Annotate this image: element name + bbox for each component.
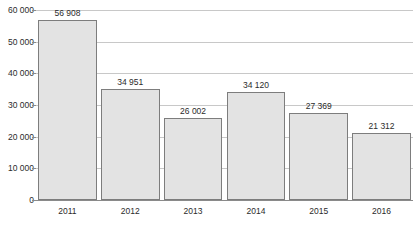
y-axis-tick-label: 40 000 (0, 69, 34, 78)
bar-chart: 010 00020 00030 00040 00050 00060 000 56… (0, 0, 416, 227)
bar-value-label: 34 120 (243, 81, 269, 90)
x-axis-tick-label: 2015 (309, 206, 328, 216)
y-axis-tick-label: 60 000 (0, 6, 34, 15)
y-axis-tick-mark (32, 105, 36, 106)
x-axis-tick-label: 2012 (121, 206, 140, 216)
bar-column: 21 312 (352, 10, 411, 200)
bar-column: 56 908 (38, 10, 97, 200)
y-axis-tick-label: 10 000 (0, 164, 34, 173)
bar[interactable] (289, 113, 348, 200)
bar-value-label: 56 908 (54, 9, 80, 18)
y-axis-tick-mark (32, 73, 36, 74)
bar[interactable] (352, 133, 411, 200)
bar[interactable] (227, 92, 286, 200)
bar-column: 26 002 (164, 10, 223, 200)
x-axis-tick-label: 2016 (372, 206, 391, 216)
y-axis-tick-label: 20 000 (0, 133, 34, 142)
y-axis-tick-mark (32, 137, 36, 138)
x-axis-tick-label: 2014 (246, 206, 265, 216)
bar-column: 34 120 (227, 10, 286, 200)
plot-area: 56 90834 95126 00234 12027 36921 312 (36, 10, 413, 200)
bar-value-label: 34 951 (117, 78, 143, 87)
bar-column: 34 951 (101, 10, 160, 200)
bar-column: 27 369 (289, 10, 348, 200)
y-axis-tick-label: 30 000 (0, 101, 34, 110)
y-axis-tick-mark (32, 10, 36, 11)
y-axis-tick-label: 0 (0, 196, 34, 205)
bar[interactable] (164, 118, 223, 200)
y-axis-tick-mark (32, 42, 36, 43)
y-axis-tick-label: 50 000 (0, 38, 34, 47)
bar[interactable] (101, 89, 160, 200)
x-axis-tick-label: 2013 (184, 206, 203, 216)
y-axis-tick-mark (32, 200, 36, 201)
bar[interactable] (38, 20, 97, 200)
axis-baseline (36, 200, 413, 201)
bar-value-label: 26 002 (180, 107, 206, 116)
y-axis-tick-mark (32, 168, 36, 169)
bar-value-label: 21 312 (369, 122, 395, 131)
x-axis-tick-label: 2011 (58, 206, 76, 216)
bar-value-label: 27 369 (306, 102, 332, 111)
